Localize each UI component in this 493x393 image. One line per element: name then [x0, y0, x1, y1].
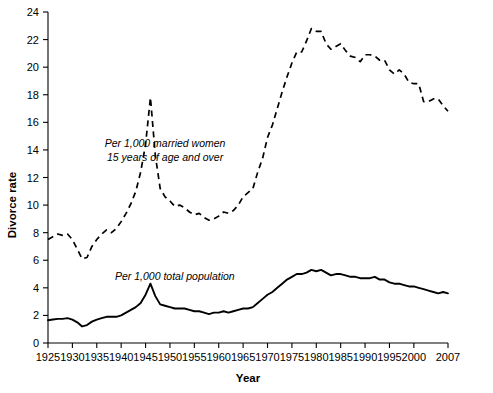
x-tick-layer: 1925193019351940194519501955196019651970…: [36, 343, 460, 363]
y-tick-label: 6: [33, 254, 39, 266]
y-tick-label: 24: [27, 6, 39, 18]
y-tick-label: 16: [27, 116, 39, 128]
y-tick-label: 10: [27, 199, 39, 211]
x-tick-label: 1970: [255, 351, 279, 363]
x-tick-label: 1930: [60, 351, 84, 363]
x-tick-label: 1925: [36, 351, 60, 363]
x-tick-label: 1980: [304, 351, 328, 363]
x-tick-label: 1935: [85, 351, 109, 363]
x-tick-label: 1950: [158, 351, 182, 363]
y-tick-label: 2: [33, 309, 39, 321]
y-tick-label: 22: [27, 34, 39, 46]
married-women-label-line: Per 1,000 married women: [105, 137, 226, 149]
x-tick-label: 1975: [280, 351, 304, 363]
y-tick-label: 4: [33, 282, 39, 294]
x-axis-title: Year: [236, 372, 261, 384]
x-tick-label: 1960: [206, 351, 230, 363]
x-tick-label: 1965: [231, 351, 255, 363]
plot-background: [48, 12, 448, 343]
y-tick-label: 8: [33, 227, 39, 239]
x-tick-label: 1995: [377, 351, 401, 363]
married-women-label-line: 15 years of age and over: [107, 151, 224, 163]
y-tick-label: 18: [27, 89, 39, 101]
x-tick-label: 1940: [109, 351, 133, 363]
x-tick-label: 1945: [133, 351, 157, 363]
y-tick-layer: 024681012141618202224: [27, 6, 48, 349]
y-tick-label: 14: [27, 144, 39, 156]
plot-area: 024681012141618202224 192519301935194019…: [6, 6, 460, 384]
y-tick-label: 0: [33, 337, 39, 349]
y-tick-label: 12: [27, 172, 39, 184]
divorce-rate-chart: 024681012141618202224 192519301935194019…: [0, 0, 493, 393]
x-tick-label: 2000: [402, 351, 426, 363]
total-population-label-line: Per 1,000 total population: [115, 270, 235, 282]
x-tick-label: 1990: [353, 351, 377, 363]
x-tick-label: 2007: [436, 351, 460, 363]
chart-svg: 024681012141618202224 192519301935194019…: [0, 0, 493, 393]
x-tick-label: 1955: [182, 351, 206, 363]
x-tick-label: 1985: [328, 351, 352, 363]
total-population-label: Per 1,000 total population: [115, 270, 235, 282]
y-axis-title-group: Divorce rate: [6, 172, 18, 238]
y-axis-title: Divorce rate: [6, 172, 18, 238]
y-tick-label: 20: [27, 61, 39, 73]
